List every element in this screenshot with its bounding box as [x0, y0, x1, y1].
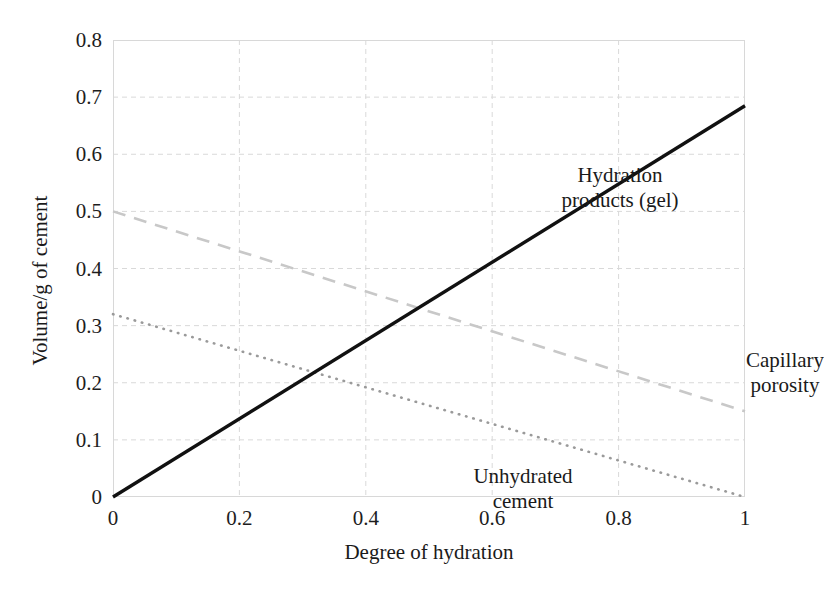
y-tick-0: 0	[92, 487, 103, 508]
series-lines	[113, 40, 745, 497]
y-tick-0.3: 0.3	[76, 315, 102, 336]
x-tick-0: 0	[108, 508, 119, 529]
y-axis-title: Volume/g of cement	[28, 151, 53, 411]
x-tick-0.4: 0.4	[353, 508, 379, 529]
y-tick-0.7: 0.7	[76, 87, 102, 108]
series-line-capillary-porosity	[113, 211, 745, 411]
y-tick-0.5: 0.5	[76, 201, 102, 222]
annotation-unhydrated-cement-line1: Unhydrated	[473, 464, 572, 489]
annotation-unhydrated-cement-line2: cement	[473, 489, 572, 514]
y-tick-0.2: 0.2	[76, 372, 102, 393]
x-tick-0.2: 0.2	[226, 508, 252, 529]
x-axis-tick-labels: 0 0.2 0.4 0.6 0.8 1	[113, 508, 745, 538]
y-tick-0.4: 0.4	[76, 258, 102, 279]
annotation-hydration-products: Hydration products (gel)	[561, 163, 678, 213]
x-tick-1: 1	[740, 508, 751, 529]
annotation-unhydrated-cement: Unhydrated cement	[473, 464, 572, 514]
plot-area: Hydration products (gel) Capillary poros…	[113, 40, 745, 497]
series-line-unhydrated-cement	[113, 314, 745, 497]
annotation-capillary-porosity-line2: porosity	[746, 373, 824, 398]
annotation-capillary-porosity: Capillary porosity	[746, 348, 824, 398]
x-axis-title: Degree of hydration	[113, 540, 745, 565]
y-tick-0.8: 0.8	[76, 30, 102, 51]
annotation-hydration-products-line1: Hydration	[561, 163, 678, 188]
y-tick-0.6: 0.6	[76, 144, 102, 165]
x-tick-0.8: 0.8	[605, 508, 631, 529]
annotation-capillary-porosity-line1: Capillary	[746, 348, 824, 373]
annotation-hydration-products-line2: products (gel)	[561, 188, 678, 213]
y-tick-0.1: 0.1	[76, 429, 102, 450]
